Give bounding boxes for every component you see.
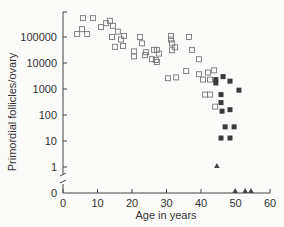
open-square-marker — [75, 32, 80, 37]
scatter-chart: 1000001000010001001010 0102030405060 Pri… — [0, 0, 284, 227]
open-square-marker — [168, 33, 173, 38]
chart-svg: 1000001000010001001010 0102030405060 Pri… — [0, 0, 284, 227]
open-square-marker — [213, 104, 218, 109]
open-square-marker — [98, 25, 103, 30]
open-square-marker — [207, 92, 212, 97]
filled-square-marker — [221, 74, 226, 79]
open-square-marker — [91, 16, 96, 21]
open-square-marker — [81, 16, 86, 21]
y-tick-label: 1 — [51, 161, 57, 173]
open-square-marker — [113, 44, 118, 49]
triangle-marker — [232, 188, 238, 193]
open-square-marker — [184, 69, 189, 74]
open-square-marker — [79, 27, 84, 32]
open-square-marker — [111, 23, 116, 28]
open-square-marker — [174, 75, 179, 80]
open-square-marker — [196, 57, 201, 62]
filled-square-marker — [227, 136, 232, 141]
open-square-marker — [186, 35, 191, 40]
open-square-marker — [165, 76, 170, 81]
triangle-marker — [214, 163, 220, 168]
open-square-marker — [109, 35, 114, 40]
open-square-marker — [205, 70, 210, 75]
open-square-marker — [132, 49, 137, 54]
y-tick-label: 1000 — [33, 83, 57, 95]
open-square-marker — [190, 47, 195, 52]
open-square-marker — [85, 32, 90, 37]
x-tick-label: 50 — [229, 197, 241, 209]
x-tick-label: 20 — [126, 197, 138, 209]
filled-square-marker — [227, 79, 232, 84]
filled-square-marker — [227, 107, 232, 112]
y-tick-label: 0 — [51, 187, 57, 199]
triangle-marker — [242, 188, 248, 193]
y-axis: 1000001000010001001010 — [20, 12, 67, 199]
x-tick-label: 0 — [60, 197, 66, 209]
open-square-marker — [201, 77, 206, 82]
filled-square-marker — [219, 92, 224, 97]
x-tick-label: 10 — [91, 197, 103, 209]
open-square-marker — [196, 72, 201, 77]
filled-square-marker — [219, 100, 224, 105]
y-tick-label: 10000 — [26, 57, 57, 69]
open-square-marker — [212, 68, 217, 73]
data-points — [75, 16, 254, 193]
filled-square-marker — [213, 81, 218, 86]
triangle-marker — [248, 188, 254, 193]
open-square-marker — [118, 37, 123, 42]
open-square-marker — [132, 54, 137, 59]
y-tick-label: 100 — [39, 109, 57, 121]
x-tick-label: 30 — [160, 197, 172, 209]
y-tick-label: 10 — [45, 135, 57, 147]
open-square-marker — [207, 77, 212, 82]
open-square-marker — [137, 35, 142, 40]
filled-square-marker — [223, 124, 228, 129]
open-square-marker — [140, 41, 145, 46]
y-axis-label: Primordial follicles/ovary — [6, 52, 18, 171]
filled-square-marker — [232, 124, 237, 129]
open-square-marker — [121, 44, 126, 49]
open-square-marker — [122, 33, 127, 38]
filled-square-marker — [220, 109, 225, 114]
open-square-marker — [115, 29, 120, 34]
filled-square-marker — [219, 136, 224, 141]
x-axis-label: Age in years — [135, 209, 197, 221]
y-tick-label: 100000 — [20, 31, 57, 43]
x-tick-label: 60 — [264, 197, 276, 209]
open-square-marker — [203, 92, 208, 97]
filled-square-marker — [236, 88, 241, 93]
x-tick-label: 40 — [195, 197, 207, 209]
